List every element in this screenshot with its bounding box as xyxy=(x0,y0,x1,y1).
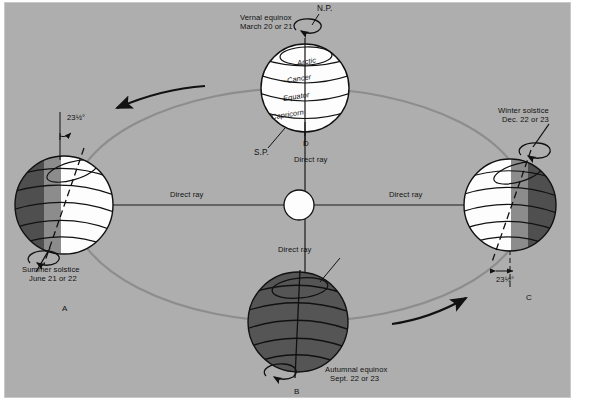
label-summer-solstice-title: Summer solstice xyxy=(22,265,80,274)
label-winter-solstice-title: Winter solstice xyxy=(498,106,549,115)
earth-summer-solstice xyxy=(0,112,114,272)
earth-autumnal-equinox xyxy=(246,258,350,379)
label-autumnal-equinox-title: Autumnal equinox xyxy=(325,365,387,374)
earth-winter-solstice xyxy=(461,124,568,290)
label-letter-c: C xyxy=(526,293,532,302)
earth-rotation-arrow xyxy=(294,19,321,33)
label-autumnal-equinox-date: Sept. 22 or 23 xyxy=(330,374,379,383)
figure-root: Vernal equinox March 20 or 21 N.P. S.P. … xyxy=(0,0,598,410)
orbit-direction-arrow-left xyxy=(117,86,205,108)
label-letter-a: A xyxy=(62,304,67,313)
label-letter-d: D xyxy=(303,139,309,148)
label-direct-ray-top: Direct ray xyxy=(294,155,328,164)
label-tilt-angle-right: 23½° xyxy=(496,275,514,284)
label-letter-b: B xyxy=(294,387,299,396)
label-vernal-equinox-title: Vernal equinox xyxy=(240,13,292,22)
label-direct-ray-right: Direct ray xyxy=(389,190,423,199)
label-winter-solstice-date: Dec. 22 or 23 xyxy=(502,115,549,124)
label-direct-ray-left: Direct ray xyxy=(170,190,204,199)
label-summer-solstice-date: June 21 or 22 xyxy=(29,274,77,283)
label-vernal-equinox-date: March 20 or 21 xyxy=(240,22,292,31)
label-tilt-angle-left: 23½° xyxy=(67,113,85,122)
sun xyxy=(284,190,314,220)
label-south-pole: S.P. xyxy=(254,148,269,157)
label-direct-ray-bottom: Direct ray xyxy=(278,245,312,254)
label-north-pole: N.P. xyxy=(317,4,332,13)
